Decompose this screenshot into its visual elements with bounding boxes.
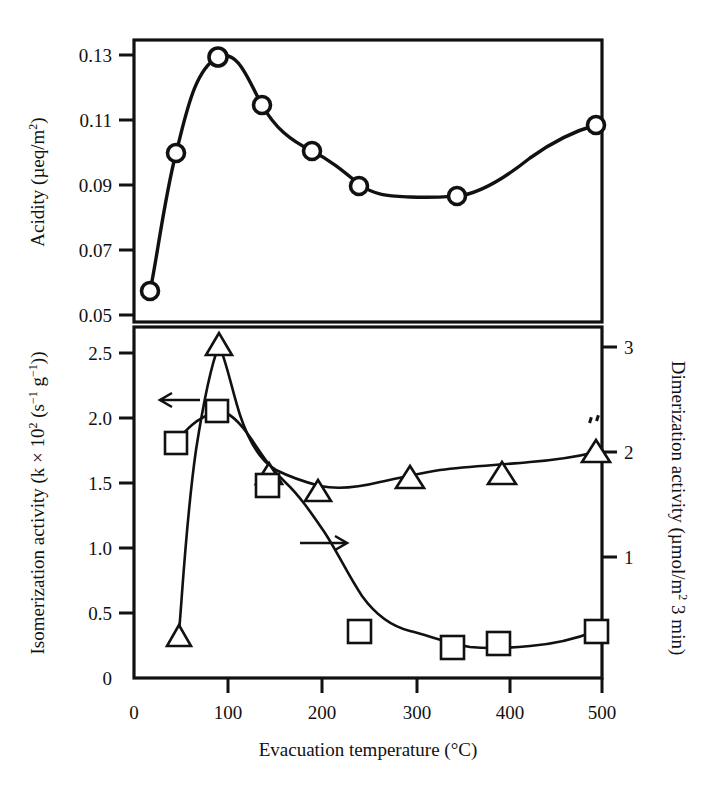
x-ticklabel-200: 200 [308,702,337,723]
bottom-panel-left-y-ticklabels: 2.5 2.0 1.5 1.0 0.5 0 [88,343,112,689]
svg-text:Acidity (µeq/m2): Acidity (µeq/m2) [26,117,49,246]
bottom-right-ticklabel-1: 1 [624,547,634,568]
data-point-square [165,432,187,454]
bl-title-p3: g [27,376,48,391]
bottom-right-ticklabel-3: 3 [624,337,634,358]
data-point-square [585,620,608,643]
top-y-title-main: Acidity (µeq/m [27,129,49,246]
bottom-panel-right-y-ticklabels: 3 2 1 [624,337,634,568]
scan-artifact-marks [588,415,600,424]
br-title-p1: Dimerization activity (µmol/m [667,361,689,595]
data-point-circle [588,117,605,134]
bl-title-p2: (s [27,404,49,422]
data-point-circle [304,143,321,160]
top-panel-y-ticks [119,55,134,315]
x-axis-title: Evacuation temperature (°C) [259,739,478,761]
bottom-left-ticklabel-3: 1.0 [88,538,112,559]
bottom-left-ticklabel-2: 1.5 [88,473,112,494]
x-axis-ticklabels: 0 100 200 300 400 500 [129,702,616,723]
figure-container: 0.13 0.11 0.09 0.07 0.05 Acidity (µeq/m2… [0,0,709,792]
top-panel-y-ticklabels: 0.13 0.11 0.09 0.07 0.05 [79,45,112,326]
top-y-ticklabel-3: 0.07 [79,240,112,261]
data-point-square [487,632,510,655]
bottom-panel-right-y-axis-title: Dimerization activity (µmol/m2 3 min) [667,361,690,656]
data-point-circle [351,178,368,195]
data-point-triangle [206,333,232,355]
top-panel-y-axis-title: Acidity (µeq/m2) [26,117,49,246]
x-axis-title-text: Evacuation temperature (°C) [259,739,478,761]
top-y-ticklabel-0: 0.13 [79,45,112,66]
bl-title-p4: )) [27,352,49,365]
dimerization-series-markers [167,333,610,646]
top-y-title-suffix: ) [27,117,49,123]
svg-text:Isomerization activity (k × 10: Isomerization activity (k × 102 (s−1 g−1… [26,352,49,655]
svg-text:Dimerization activity (µmol/m2: Dimerization activity (µmol/m2 3 min) [667,361,690,656]
data-point-triangle [167,625,191,646]
data-point-square [256,474,279,497]
x-ticklabel-400: 400 [496,702,525,723]
isomerization-series-line [176,412,596,649]
data-point-square [441,636,464,659]
data-point-square [348,620,371,643]
acidity-series-markers [142,48,605,300]
acidity-series-line [150,55,596,291]
data-point-circle [142,283,159,300]
left-arrow-annotation [160,393,200,407]
top-y-ticklabel-1: 0.11 [79,110,112,131]
top-y-ticklabel-4: 0.05 [79,305,112,326]
data-point-circle [254,97,271,114]
dimerization-series-line [179,345,596,632]
x-ticklabel-500: 500 [588,702,617,723]
bottom-left-ticklabel-5: 0 [103,668,113,689]
bottom-left-ticklabel-4: 0.5 [88,603,112,624]
bl-title-e2: −1 [26,391,40,404]
bottom-left-ticklabel-0: 2.5 [88,343,112,364]
data-point-square [206,400,228,422]
data-point-circle [209,48,227,66]
bottom-left-ticklabel-1: 2.0 [88,408,112,429]
x-ticklabel-300: 300 [403,702,432,723]
chart-svg: 0.13 0.11 0.09 0.07 0.05 Acidity (µeq/m2… [0,0,709,792]
bottom-panel-left-y-axis-title: Isomerization activity (k × 102 (s−1 g−1… [26,352,49,655]
x-ticklabel-0: 0 [129,702,139,723]
data-point-circle [449,188,466,205]
bottom-right-ticklabel-2: 2 [624,442,634,463]
right-arrow-annotation [300,536,347,550]
x-ticklabel-100: 100 [214,702,243,723]
bl-title-e3: −1 [26,364,40,377]
bottom-panel-left-y-ticks [119,353,134,613]
bl-title-p1: Isomerization activity (k × 10 [27,428,49,654]
x-axis-ticks [228,678,602,693]
br-title-p2: 3 min) [667,600,689,655]
data-point-circle [168,145,185,162]
top-y-ticklabel-2: 0.09 [79,175,112,196]
